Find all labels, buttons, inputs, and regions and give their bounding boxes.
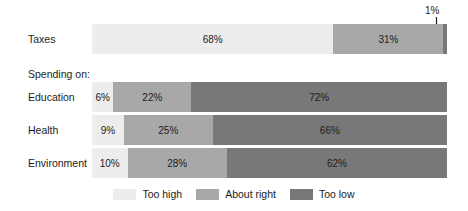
segment-education-about-right: 22% [113, 82, 191, 112]
group-header-spending-on: Spending on: [28, 68, 90, 80]
segment-taxes-about-right: 31% [333, 24, 443, 54]
bar-environment: 10% 28% 62% [92, 148, 447, 178]
legend-swatch-too-low [290, 189, 313, 200]
legend-label-too-high: Too high [142, 188, 182, 200]
legend-swatch-about-right [196, 189, 219, 200]
legend-item-too-high: Too high [113, 188, 182, 200]
segment-environment-too-low: 62% [227, 148, 447, 178]
segment-education-too-low: 72% [191, 82, 447, 112]
stacked-bar-chart: 1% Taxes 68% 31% Spending on: Education … [0, 0, 468, 211]
segment-health-too-low: 66% [213, 115, 447, 145]
legend-label-about-right: About right [225, 188, 276, 200]
segment-environment-about-right: 28% [128, 148, 227, 178]
bar-taxes: 68% 31% [92, 24, 447, 54]
legend-label-too-low: Too low [319, 188, 355, 200]
segment-education-too-high: 6% [92, 82, 113, 112]
segment-health-about-right: 25% [124, 115, 213, 145]
segment-environment-too-high: 10% [92, 148, 128, 178]
segment-health-too-high: 9% [92, 115, 124, 145]
legend-item-about-right: About right [196, 188, 276, 200]
chart-legend: Too high About right Too low [0, 188, 468, 200]
segment-taxes-too-high: 68% [92, 24, 333, 54]
bar-education: 6% 22% 72% [92, 82, 447, 112]
legend-swatch-too-high [113, 189, 136, 200]
segment-taxes-too-low [443, 24, 447, 54]
bar-health: 9% 25% 66% [92, 115, 447, 145]
legend-item-too-low: Too low [290, 188, 355, 200]
annotation-label-1pct: 1% [425, 5, 439, 16]
